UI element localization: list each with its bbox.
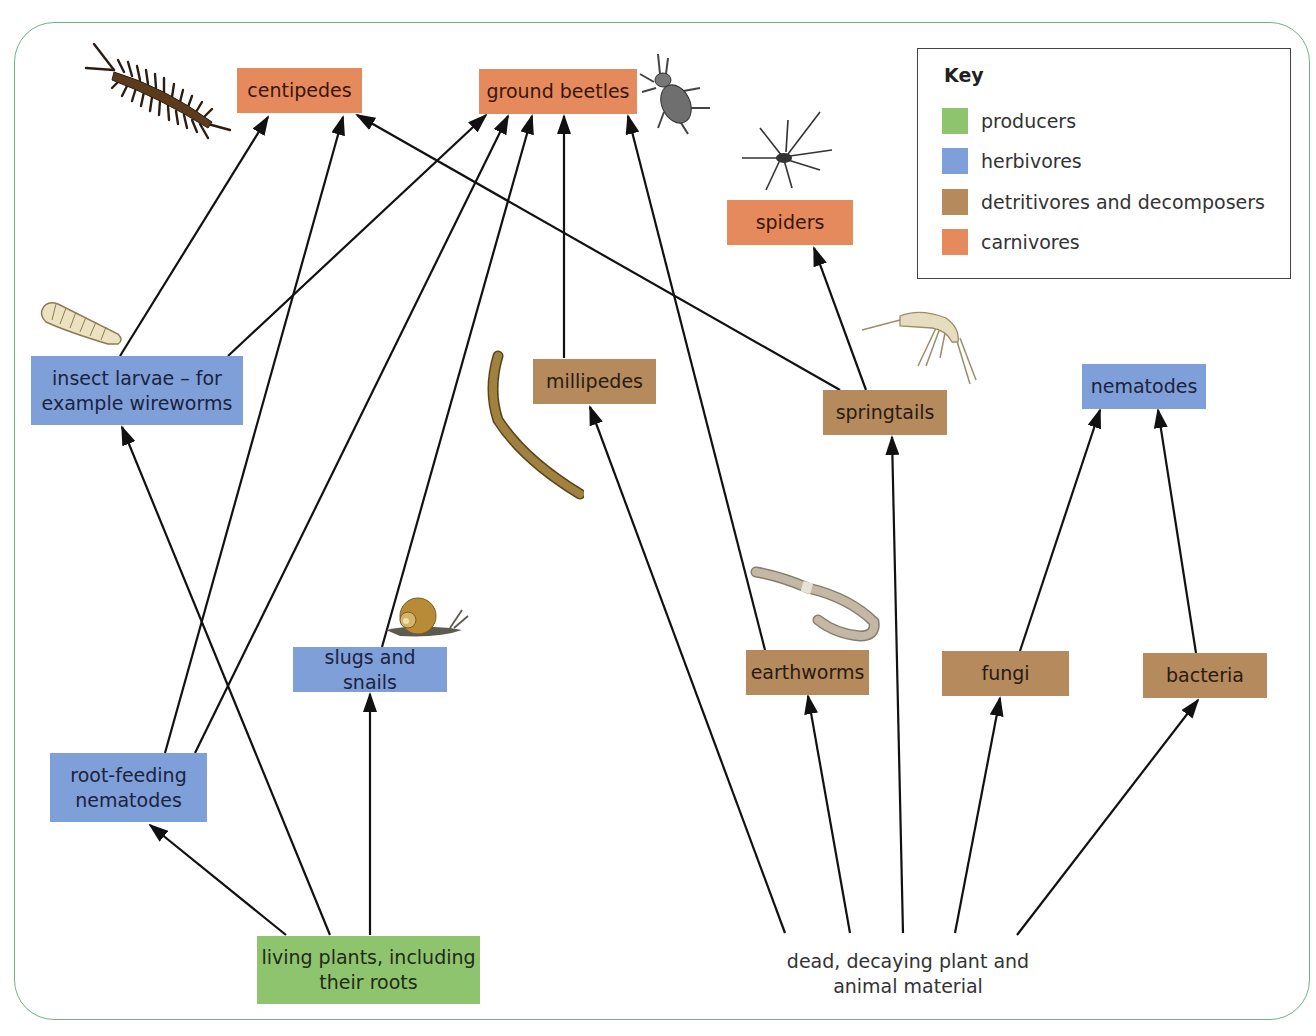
- arrow-plants-to-root-nematodes: [150, 825, 286, 935]
- node-label: bacteria: [1166, 663, 1244, 688]
- arrow-bacteria-to-nematodes: [1158, 410, 1196, 653]
- arrow-dead-to-earthworms: [808, 696, 850, 933]
- node-insect-larvae: insect larvae – for example wireworms: [31, 356, 243, 425]
- node-living-plants: living plants, including their roots: [257, 936, 480, 1004]
- node-springtails: springtails: [823, 390, 947, 435]
- node-label-line: root-feeding: [70, 763, 186, 788]
- legend-label: producers: [981, 110, 1076, 132]
- node-label: slugs and snails: [297, 645, 443, 695]
- centipede-illustration: [84, 42, 234, 142]
- legend-key: Key producers herbivores detritivores an…: [917, 48, 1291, 279]
- node-label: millipedes: [546, 369, 643, 394]
- legend-item-carnivores: carnivores: [942, 228, 1080, 256]
- node-label: ground beetles: [486, 79, 629, 104]
- arrow-dead-to-bacteria: [1017, 700, 1198, 935]
- node-label-line: dead, decaying plant and: [787, 949, 1029, 974]
- earthworm-illustration: [750, 562, 885, 647]
- ground-beetle-illustration: [638, 52, 718, 142]
- node-label: springtails: [836, 400, 935, 425]
- legend-label: herbivores: [981, 150, 1082, 172]
- node-label: nematodes: [1091, 374, 1198, 399]
- node-label: fungi: [981, 661, 1029, 686]
- node-label: centipedes: [247, 78, 351, 103]
- larva-illustration: [38, 298, 128, 348]
- node-label-line: their roots: [319, 970, 417, 995]
- snail-illustration: [380, 590, 470, 640]
- arrow-fungi-to-nematodes: [1020, 410, 1100, 651]
- node-dead-decaying-material: dead, decaying plant and animal material: [770, 948, 1046, 1000]
- legend-swatch-brown: [942, 189, 968, 215]
- arrow-insect-larvae-to-centipedes: [120, 117, 268, 356]
- node-label-line: animal material: [833, 974, 983, 999]
- node-label-line: example wireworms: [42, 391, 233, 416]
- legend-title: Key: [944, 64, 984, 86]
- node-label: spiders: [756, 210, 825, 235]
- legend-label: carnivores: [981, 231, 1080, 253]
- legend-item-producers: producers: [942, 107, 1076, 135]
- node-label-line: insect larvae – for: [52, 366, 222, 391]
- node-bacteria: bacteria: [1143, 653, 1267, 698]
- springtail-illustration: [860, 298, 980, 388]
- node-millipedes: millipedes: [533, 359, 656, 404]
- arrow-springtails-to-spiders: [814, 248, 866, 390]
- node-root-feeding-nematodes: root-feeding nematodes: [50, 753, 207, 822]
- legend-item-detritivores: detritivores and decomposers: [942, 188, 1265, 216]
- legend-item-herbivores: herbivores: [942, 147, 1082, 175]
- legend-swatch-green: [942, 108, 968, 134]
- node-label-line: nematodes: [75, 788, 182, 813]
- node-label: earthworms: [751, 660, 865, 685]
- node-ground-beetles: ground beetles: [479, 69, 637, 114]
- arrow-insect-larvae-to-ground-beetles: [228, 115, 486, 356]
- spider-illustration: [740, 108, 835, 193]
- node-label-line: living plants, including: [261, 945, 475, 970]
- node-centipedes: centipedes: [237, 68, 362, 113]
- arrow-dead-to-fungi: [955, 698, 1000, 933]
- arrow-dead-to-springtails: [892, 437, 903, 933]
- node-spiders: spiders: [727, 200, 853, 245]
- node-fungi: fungi: [942, 651, 1069, 696]
- legend-swatch-orange: [942, 229, 968, 255]
- node-slugs-and-snails: slugs and snails: [293, 647, 447, 692]
- legend-swatch-blue: [942, 148, 968, 174]
- node-nematodes: nematodes: [1082, 364, 1206, 409]
- node-earthworms: earthworms: [746, 650, 869, 695]
- legend-label: detritivores and decomposers: [981, 191, 1265, 213]
